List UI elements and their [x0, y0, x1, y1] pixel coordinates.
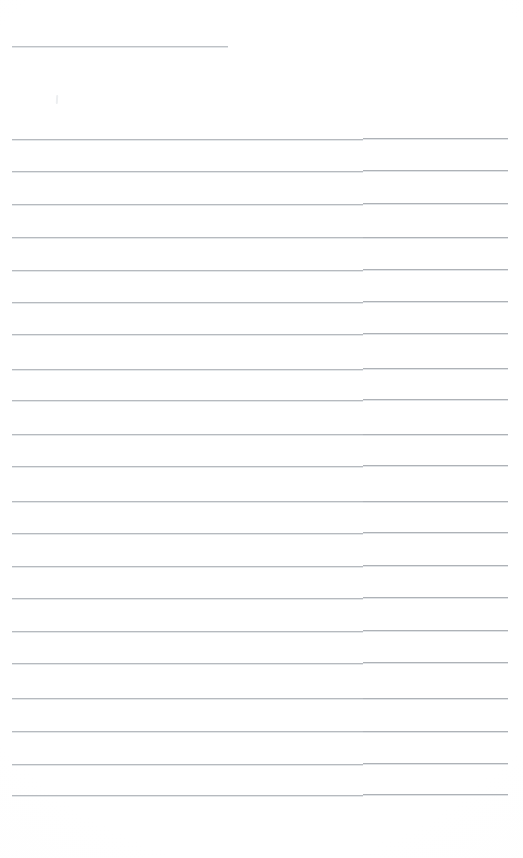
ruled-line-segment-right: [363, 237, 508, 238]
ruled-line: [0, 399, 523, 402]
notepad-page: [0, 0, 523, 858]
ruled-line-segment-left: [12, 501, 363, 502]
ruled-line-segment-left: [12, 334, 363, 335]
ruled-line: [0, 236, 523, 239]
ruled-line: [0, 697, 523, 700]
ruled-line-segment-right: [363, 565, 508, 566]
ruled-line-segment-right: [363, 532, 508, 533]
ruled-line: [0, 662, 523, 665]
ruled-line-segment-right: [363, 794, 508, 795]
ruled-line: [0, 763, 523, 766]
ruled-line-segment-right: [363, 501, 508, 502]
ruled-line-segment-left: [12, 663, 363, 664]
ruled-line-segment-left: [12, 369, 363, 370]
ruled-line-segment-right: [363, 399, 508, 400]
header-rule: [12, 46, 228, 47]
ruled-line: [0, 203, 523, 206]
ruled-line-segment-right: [363, 170, 508, 171]
ruled-line: [0, 597, 523, 600]
ruled-line-segment-right: [363, 138, 508, 139]
ruled-line-segment-left: [12, 270, 363, 271]
ruled-line-segment-left: [12, 631, 363, 632]
ruled-line-segment-left: [12, 171, 363, 172]
ruled-line-segment-left: [12, 764, 363, 765]
ruled-line-segment-right: [363, 203, 508, 204]
ruled-line-segment-right: [363, 763, 508, 764]
ruled-line-segment-left: [12, 302, 363, 303]
ruled-line-segment-right: [363, 630, 508, 631]
ruled-line-segment-left: [12, 237, 363, 238]
ruled-line-segment-right: [363, 333, 508, 334]
ruled-line-segment-left: [12, 566, 363, 567]
ruled-line-segment-right: [363, 698, 508, 699]
ruled-line-segment-left: [12, 139, 363, 140]
ruled-line: [0, 794, 523, 797]
ruled-line-segment-left: [12, 204, 363, 205]
ruled-line: [0, 565, 523, 568]
ruled-line: [0, 630, 523, 633]
ruled-line: [0, 465, 523, 468]
ruled-line-segment-right: [363, 269, 508, 270]
ruled-line: [0, 368, 523, 371]
ruled-line-segment-right: [363, 434, 508, 435]
ruled-line: [0, 138, 523, 141]
ruled-line: [0, 301, 523, 304]
ruled-line-segment-left: [12, 400, 363, 401]
ruled-line-segment-right: [363, 301, 508, 302]
ruled-line-segment-right: [363, 597, 508, 598]
ruled-line-segment-right: [363, 368, 508, 369]
ruled-line: [0, 333, 523, 336]
ruled-line-segment-left: [12, 731, 363, 732]
ruled-line-segment-left: [12, 466, 363, 467]
ruled-line-segment-left: [12, 434, 363, 435]
ruled-line-segment-left: [12, 795, 363, 796]
ruled-line-segment-left: [12, 598, 363, 599]
ruled-line: [0, 532, 523, 535]
ruled-line-segment-right: [363, 662, 508, 663]
ruled-line: [0, 269, 523, 272]
ruled-line-segment-right: [363, 731, 508, 732]
ruled-line-segment-right: [363, 465, 508, 466]
ruled-line: [0, 170, 523, 173]
ruled-line-segment-left: [12, 698, 363, 699]
pencil-mark: [56, 95, 58, 104]
ruled-line: [0, 730, 523, 733]
ruled-line: [0, 433, 523, 436]
ruled-line-segment-left: [12, 533, 363, 534]
ruled-line: [0, 500, 523, 503]
